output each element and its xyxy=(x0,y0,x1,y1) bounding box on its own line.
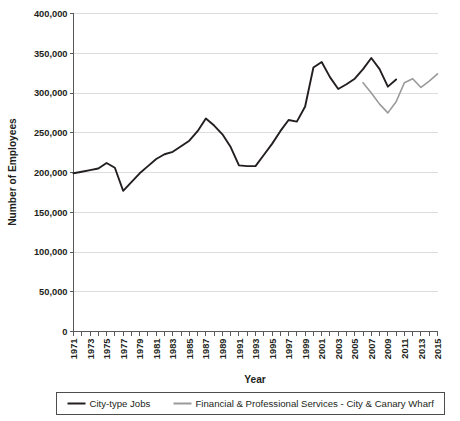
x-tick-label: 1991 xyxy=(235,339,245,360)
x-axis: 1971197319751977197919811983198519871989… xyxy=(69,332,443,360)
legend-item-1: Financial & Professional Services - City… xyxy=(174,398,435,409)
x-tick-label: 1975 xyxy=(102,339,112,360)
y-tick-label: 50,000 xyxy=(39,287,67,297)
x-tick-label: 2013 xyxy=(417,339,427,360)
y-tick-label: 100,000 xyxy=(34,247,68,257)
x-tick-label: 2011 xyxy=(400,339,410,359)
y-tick-label: 200,000 xyxy=(34,168,68,178)
x-tick-label: 2003 xyxy=(334,339,344,360)
series-lines xyxy=(74,58,438,191)
x-tick-label: 1989 xyxy=(218,339,228,360)
gridlines xyxy=(74,14,438,292)
legend-label-0: City-type Jobs xyxy=(90,398,151,409)
y-tick-label: 350,000 xyxy=(34,49,68,59)
x-tick-label: 2001 xyxy=(317,339,327,360)
x-tick-label: 1971 xyxy=(69,339,79,360)
y-tick-label: 300,000 xyxy=(34,88,68,98)
x-tick-label: 1981 xyxy=(152,339,162,360)
x-tick-label: 1979 xyxy=(135,339,145,360)
legend-label-1: Financial & Professional Services - City… xyxy=(196,398,435,409)
x-tick-label: 1993 xyxy=(251,339,261,360)
x-tick-label: 1995 xyxy=(268,339,278,360)
x-tick-label: 1987 xyxy=(201,339,211,360)
x-tick-label: 1999 xyxy=(301,339,311,360)
x-tick-label: 2007 xyxy=(367,339,377,360)
x-tick-label: 1997 xyxy=(284,339,294,360)
series-line-0 xyxy=(74,58,397,191)
chart-legend: City-type JobsFinancial & Professional S… xyxy=(57,393,445,415)
legend-item-0: City-type Jobs xyxy=(68,398,151,409)
y-tick-label: 0 xyxy=(62,327,67,337)
line-chart: 050,000100,000150,000200,000250,000300,0… xyxy=(0,0,460,421)
x-tick-label: 1983 xyxy=(168,339,178,360)
x-tick-label: 1973 xyxy=(86,339,96,360)
y-axis: 050,000100,000150,000200,000250,000300,0… xyxy=(34,9,74,337)
x-tick-label: 2009 xyxy=(383,339,393,360)
chart-container: 050,000100,000150,000200,000250,000300,0… xyxy=(0,0,460,421)
y-tick-label: 150,000 xyxy=(34,208,68,218)
x-tick-label: 2005 xyxy=(350,339,360,360)
x-tick-label: 1985 xyxy=(185,339,195,360)
y-tick-label: 250,000 xyxy=(34,128,68,138)
y-tick-label: 400,000 xyxy=(34,9,68,19)
x-tick-label: 2015 xyxy=(433,339,443,360)
y-axis-title: Number of Employees xyxy=(7,118,18,226)
x-tick-label: 1977 xyxy=(119,339,129,360)
x-axis-title: Year xyxy=(244,374,266,385)
